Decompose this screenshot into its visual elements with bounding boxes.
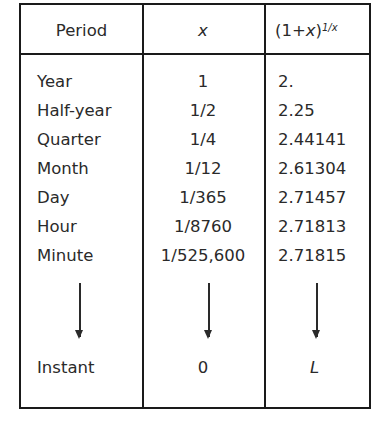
row-x: 1/525,600 [142, 246, 264, 266]
row-x: 1/12 [142, 159, 264, 179]
row-x: 1/8760 [142, 217, 264, 237]
row-period: Hour [37, 217, 77, 237]
row-period: Day [37, 188, 70, 208]
row-period: Year [37, 72, 72, 92]
row-x: 1 [142, 72, 264, 92]
row-value: 2.71815 [278, 246, 346, 266]
row-period: Minute [37, 246, 93, 266]
expr-exponent: 1/x [322, 22, 338, 33]
expr-close: ) [316, 21, 322, 40]
down-arrow-icon [316, 283, 318, 337]
row-period: Month [37, 159, 89, 179]
row-x: 1/4 [142, 130, 264, 150]
limit-value: L [310, 358, 319, 378]
column-divider [264, 5, 266, 407]
limit-period: Instant [37, 358, 94, 378]
header-period: Period [21, 21, 142, 41]
row-x: 1/365 [142, 188, 264, 208]
row-period: Half-year [37, 101, 111, 121]
row-value: 2.71813 [278, 217, 346, 237]
row-value: 2. [278, 72, 294, 92]
expr-base: (1+ [275, 21, 306, 40]
down-arrow-icon [208, 283, 210, 337]
row-x: 1/2 [142, 101, 264, 121]
row-period: Quarter [37, 130, 101, 150]
header-divider [21, 53, 369, 55]
row-value: 2.44141 [278, 130, 346, 150]
row-value: 2.25 [278, 101, 315, 121]
expr-var: x [306, 21, 316, 40]
row-value: 2.71457 [278, 188, 346, 208]
compound-interest-table: Period x (1+x)1/x Year 1 2. Half-year 1/… [19, 3, 371, 409]
down-arrow-icon [79, 283, 81, 337]
header-x: x [142, 21, 264, 41]
limit-x: 0 [142, 358, 264, 378]
header-expression: (1+x)1/x [275, 21, 338, 41]
row-value: 2.61304 [278, 159, 346, 179]
